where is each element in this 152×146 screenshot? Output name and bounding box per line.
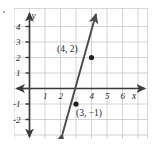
point-label-4-2: (4, 2)	[57, 45, 78, 55]
y-tick-label-2: 2	[16, 54, 21, 63]
y-tick-label-1: 1	[16, 69, 21, 78]
y-tick-label-4: 4	[16, 23, 21, 32]
coordinate-plane: 4 3 2 1 -1 -2 1 2 4 5 6 y x (4, 2) (3, −…	[14, 8, 148, 139]
x-tick-label-6: 6	[121, 92, 126, 101]
point-label-3-neg1: (3, −1)	[76, 109, 102, 119]
x-tick-label-1: 1	[43, 92, 48, 101]
y-tick-label-3: 3	[16, 38, 21, 47]
point-4-2	[89, 55, 94, 60]
y-tick-label-neg1: -1	[13, 100, 21, 109]
x-axis-label: x	[132, 92, 136, 102]
page-speck	[3, 11, 5, 13]
y-axis-label: y	[32, 12, 36, 22]
plotted-line	[14, 8, 148, 139]
coordinate-graph-screenshot: 4 3 2 1 -1 -2 1 2 4 5 6 y x (4, 2) (3, −…	[0, 0, 152, 146]
x-tick-label-5: 5	[105, 92, 110, 101]
x-tick-label-2: 2	[59, 92, 64, 101]
x-tick-label-4: 4	[90, 92, 95, 101]
y-tick-label-neg2: -2	[13, 116, 21, 125]
point-3-neg1	[73, 101, 78, 106]
